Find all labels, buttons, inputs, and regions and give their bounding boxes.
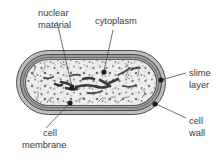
label-slime-layer-line1: slime bbox=[189, 68, 211, 78]
label-cell-membrane-line1: cell bbox=[43, 128, 57, 138]
bacterial-cell-diagram: nuclear material cytoplasm slime layer c… bbox=[0, 0, 223, 163]
dot-slime-layer bbox=[158, 77, 163, 82]
dot-cell-wall bbox=[152, 101, 157, 106]
label-cell-wall-line1: cell bbox=[189, 116, 203, 126]
label-nuclear-material-line2: material bbox=[38, 20, 71, 30]
dot-cytoplasm bbox=[101, 69, 106, 74]
label-slime-layer-line2: layer bbox=[189, 80, 209, 90]
dot-nuclear-material bbox=[69, 85, 74, 90]
diagram-canvas: nuclear material cytoplasm slime layer c… bbox=[0, 0, 223, 163]
label-nuclear-material-line1: nuclear bbox=[38, 8, 69, 18]
label-cytoplasm-line1: cytoplasm bbox=[95, 16, 137, 26]
dot-cell-membrane bbox=[67, 100, 72, 105]
label-cell-membrane-line2: membrane bbox=[22, 140, 66, 150]
label-cell-wall-line2: wall bbox=[188, 128, 205, 138]
leader-cell-wall bbox=[156, 104, 186, 118]
